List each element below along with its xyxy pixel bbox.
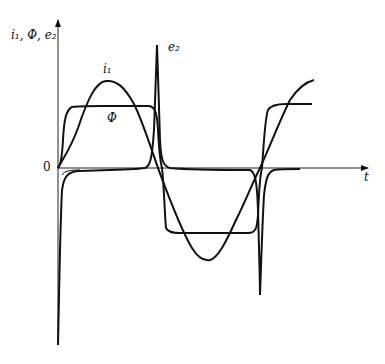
y-axis-label: i₁, Φ, e₂ xyxy=(11,28,57,42)
label-phi: Φ xyxy=(107,111,117,125)
label-e2: e₂ xyxy=(168,40,180,54)
origin-label: 0 xyxy=(43,160,51,174)
x-axis-label: t xyxy=(364,170,369,184)
label-i1: i₁ xyxy=(103,62,112,76)
waveform-diagram xyxy=(0,0,385,364)
